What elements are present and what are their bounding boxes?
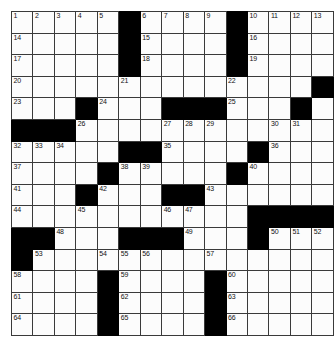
crossword-cell[interactable]: 8 — [183, 12, 204, 34]
crossword-cell[interactable] — [54, 184, 75, 206]
crossword-cell[interactable] — [33, 206, 54, 228]
crossword-cell[interactable] — [140, 292, 161, 314]
crossword-cell[interactable] — [183, 55, 204, 77]
crossword-cell[interactable] — [54, 314, 75, 336]
crossword-cell[interactable] — [312, 314, 334, 336]
crossword-cell[interactable] — [140, 98, 161, 120]
crossword-cell[interactable] — [312, 271, 334, 293]
crossword-cell[interactable] — [33, 314, 54, 336]
crossword-cell[interactable] — [140, 314, 161, 336]
crossword-cell[interactable] — [97, 55, 118, 77]
crossword-cell[interactable] — [162, 163, 183, 185]
crossword-cell[interactable] — [97, 76, 118, 98]
crossword-cell[interactable] — [183, 76, 204, 98]
crossword-cell[interactable]: 31 — [290, 119, 311, 141]
crossword-cell[interactable] — [183, 249, 204, 271]
crossword-grid[interactable]: 1234567891011121314151617181920212223242… — [11, 11, 334, 336]
crossword-cell[interactable]: 40 — [247, 163, 268, 185]
crossword-cell[interactable] — [54, 163, 75, 185]
crossword-cell[interactable]: 13 — [312, 12, 334, 34]
crossword-cell[interactable] — [290, 249, 311, 271]
crossword-cell[interactable]: 23 — [12, 98, 33, 120]
crossword-cell[interactable]: 12 — [290, 12, 311, 34]
crossword-cell[interactable] — [269, 271, 290, 293]
crossword-cell[interactable] — [247, 249, 268, 271]
crossword-cell[interactable] — [140, 76, 161, 98]
crossword-cell[interactable] — [290, 141, 311, 163]
crossword-cell[interactable] — [247, 98, 268, 120]
crossword-cell[interactable]: 34 — [54, 141, 75, 163]
crossword-cell[interactable]: 17 — [12, 55, 33, 77]
crossword-cell[interactable] — [183, 271, 204, 293]
crossword-cell[interactable]: 37 — [12, 163, 33, 185]
crossword-cell[interactable] — [247, 292, 268, 314]
crossword-cell[interactable] — [312, 98, 334, 120]
crossword-cell[interactable] — [312, 292, 334, 314]
crossword-cell[interactable] — [76, 292, 97, 314]
crossword-cell[interactable]: 26 — [76, 119, 97, 141]
crossword-cell[interactable] — [162, 314, 183, 336]
crossword-cell[interactable] — [76, 163, 97, 185]
crossword-cell[interactable] — [54, 76, 75, 98]
crossword-cell[interactable] — [183, 292, 204, 314]
crossword-cell[interactable]: 61 — [12, 292, 33, 314]
crossword-cell[interactable]: 19 — [247, 55, 268, 77]
crossword-cell[interactable] — [205, 206, 226, 228]
crossword-cell[interactable] — [76, 314, 97, 336]
crossword-cell[interactable] — [312, 141, 334, 163]
crossword-cell[interactable] — [183, 314, 204, 336]
crossword-cell[interactable] — [226, 227, 247, 249]
crossword-cell[interactable] — [97, 206, 118, 228]
crossword-cell[interactable] — [269, 249, 290, 271]
crossword-cell[interactable]: 60 — [226, 271, 247, 293]
crossword-cell[interactable]: 46 — [162, 206, 183, 228]
crossword-cell[interactable] — [54, 206, 75, 228]
crossword-cell[interactable]: 20 — [12, 76, 33, 98]
crossword-cell[interactable] — [269, 76, 290, 98]
crossword-cell[interactable] — [247, 184, 268, 206]
crossword-cell[interactable]: 30 — [269, 119, 290, 141]
crossword-cell[interactable] — [162, 292, 183, 314]
crossword-cell[interactable]: 29 — [205, 119, 226, 141]
crossword-cell[interactable] — [97, 227, 118, 249]
crossword-cell[interactable]: 41 — [12, 184, 33, 206]
crossword-cell[interactable] — [290, 292, 311, 314]
crossword-cell[interactable] — [312, 33, 334, 55]
crossword-cell[interactable] — [269, 184, 290, 206]
crossword-cell[interactable] — [226, 184, 247, 206]
crossword-cell[interactable]: 39 — [140, 163, 161, 185]
crossword-cell[interactable] — [290, 55, 311, 77]
crossword-cell[interactable]: 21 — [119, 76, 140, 98]
crossword-cell[interactable] — [97, 141, 118, 163]
crossword-cell[interactable]: 3 — [54, 12, 75, 34]
crossword-cell[interactable] — [76, 55, 97, 77]
crossword-cell[interactable] — [247, 314, 268, 336]
crossword-cell[interactable]: 38 — [119, 163, 140, 185]
crossword-cell[interactable] — [119, 98, 140, 120]
crossword-cell[interactable] — [76, 33, 97, 55]
crossword-cell[interactable] — [312, 249, 334, 271]
crossword-cell[interactable]: 55 — [119, 249, 140, 271]
crossword-cell[interactable] — [76, 141, 97, 163]
crossword-cell[interactable]: 44 — [12, 206, 33, 228]
crossword-cell[interactable] — [54, 271, 75, 293]
crossword-cell[interactable] — [97, 33, 118, 55]
crossword-cell[interactable]: 47 — [183, 206, 204, 228]
crossword-cell[interactable]: 63 — [226, 292, 247, 314]
crossword-cell[interactable] — [162, 249, 183, 271]
crossword-cell[interactable]: 24 — [97, 98, 118, 120]
crossword-cell[interactable] — [76, 271, 97, 293]
crossword-cell[interactable]: 7 — [162, 12, 183, 34]
crossword-cell[interactable] — [183, 141, 204, 163]
crossword-cell[interactable]: 10 — [247, 12, 268, 34]
crossword-cell[interactable]: 27 — [162, 119, 183, 141]
crossword-cell[interactable] — [312, 184, 334, 206]
crossword-cell[interactable] — [269, 292, 290, 314]
crossword-cell[interactable]: 4 — [76, 12, 97, 34]
crossword-cell[interactable] — [205, 55, 226, 77]
crossword-cell[interactable] — [140, 206, 161, 228]
crossword-cell[interactable]: 48 — [54, 227, 75, 249]
crossword-cell[interactable]: 57 — [205, 249, 226, 271]
crossword-cell[interactable]: 54 — [97, 249, 118, 271]
crossword-cell[interactable] — [269, 163, 290, 185]
